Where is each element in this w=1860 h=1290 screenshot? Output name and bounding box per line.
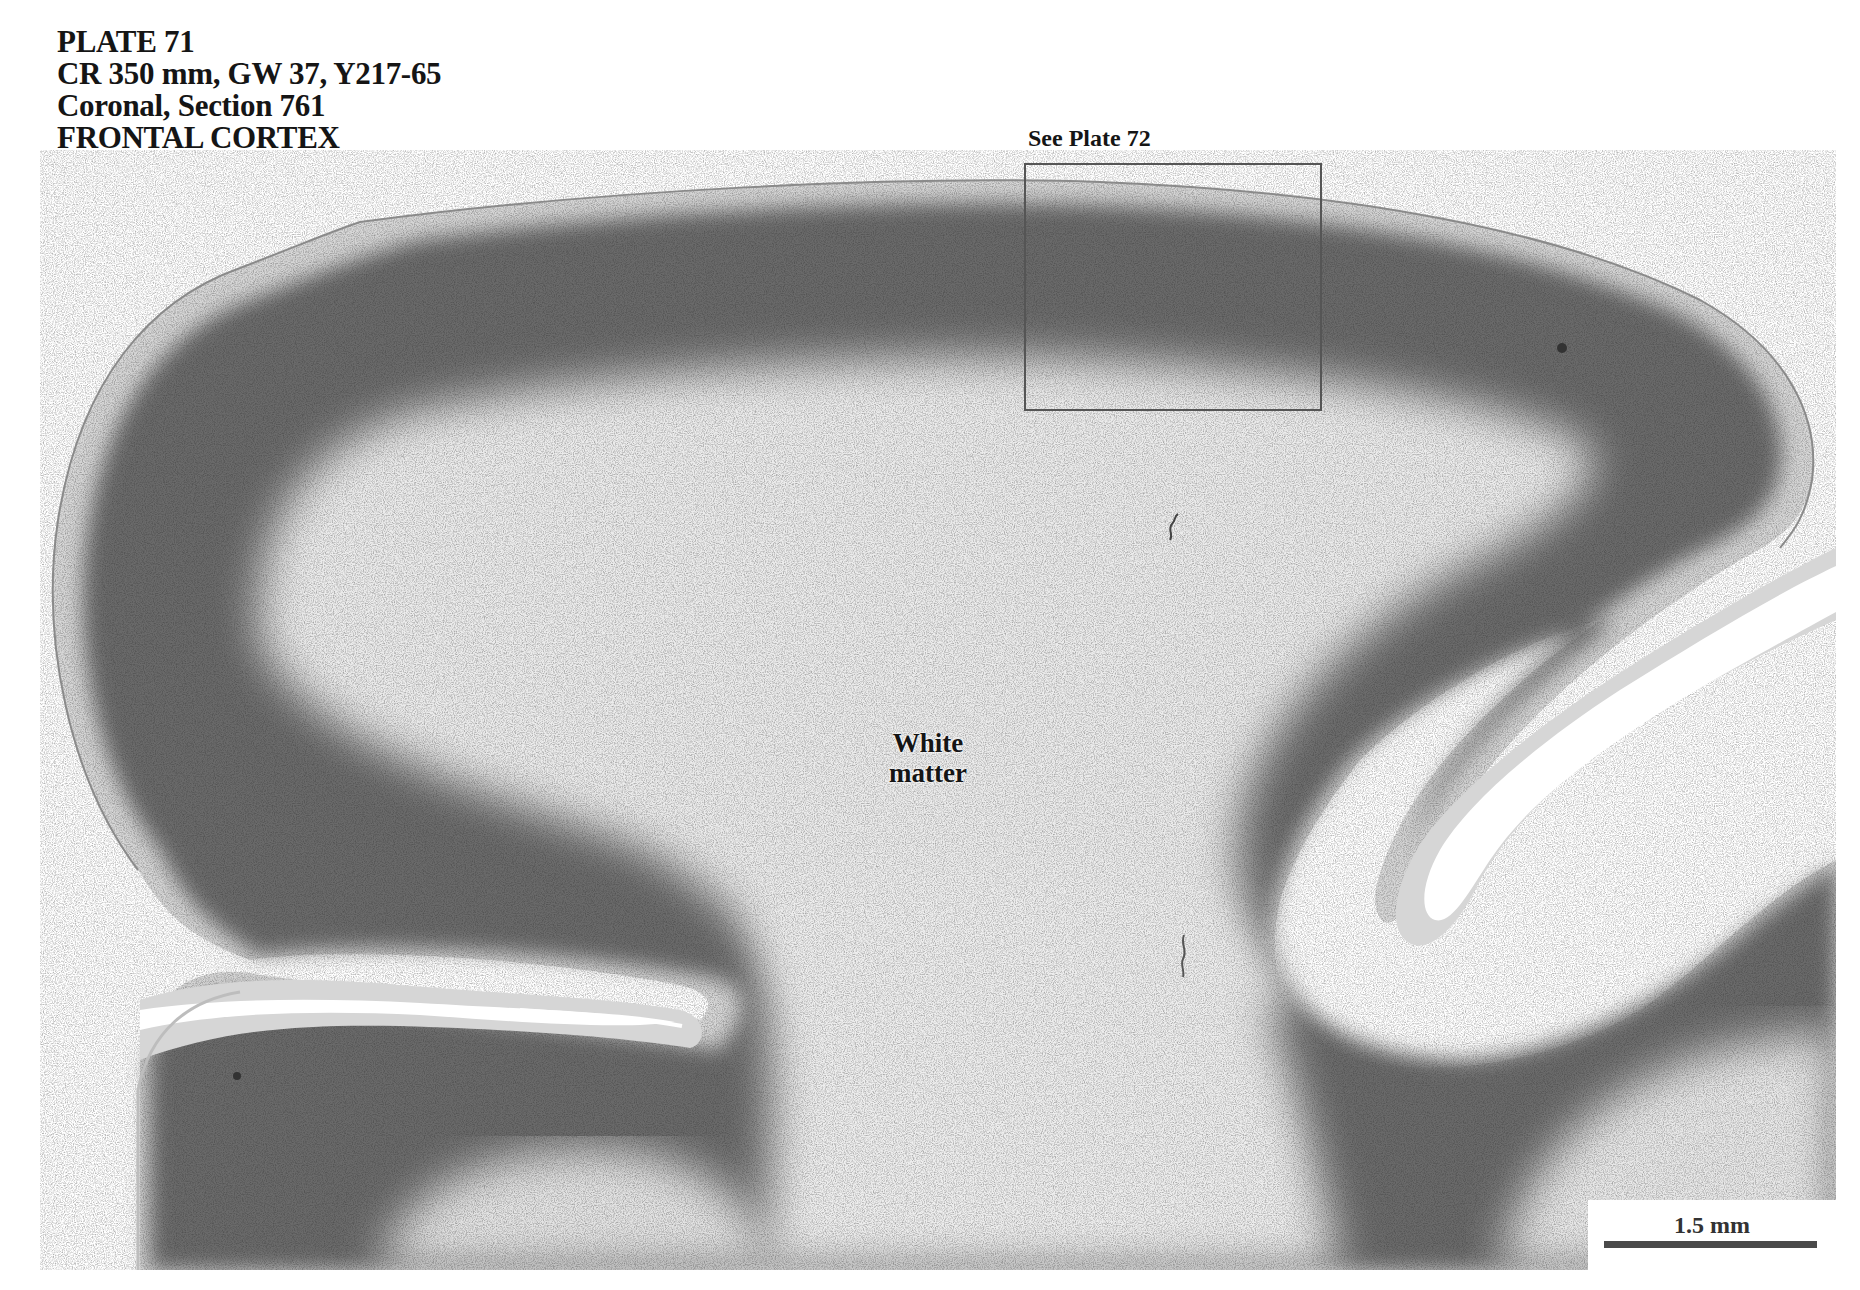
scale-bar-panel: 1.5 mm (1588, 1200, 1836, 1270)
inset-reference-label: See Plate 72 (1028, 125, 1151, 152)
inset-region-box (1024, 163, 1322, 411)
white-matter-label-line2: matter (868, 758, 988, 788)
scale-bar-label: 1.5 mm (1588, 1212, 1836, 1239)
white-matter-label: White matter (868, 728, 988, 788)
white-matter-label-line1: White (868, 728, 988, 758)
scale-bar (1604, 1241, 1817, 1248)
histology-section-image (0, 0, 1860, 1290)
